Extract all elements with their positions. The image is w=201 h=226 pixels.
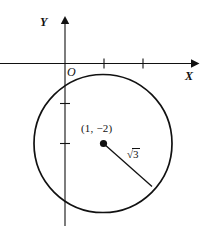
radius-length-label: √3 (127, 148, 140, 160)
y-axis-label: Y (40, 16, 47, 28)
origin-label: O (67, 66, 76, 78)
radicand-value: 3 (132, 148, 140, 160)
radical-sign: √ (127, 149, 133, 160)
circle-diagram: Y X O (1, −2) √3 (0, 0, 201, 226)
y-axis-arrowhead (61, 16, 69, 24)
diagram-canvas (0, 0, 201, 226)
x-axis-label: X (185, 70, 193, 82)
center-point-marker (100, 140, 107, 147)
center-coordinate-label: (1, −2) (81, 123, 112, 134)
x-axis-arrowhead (191, 59, 200, 67)
